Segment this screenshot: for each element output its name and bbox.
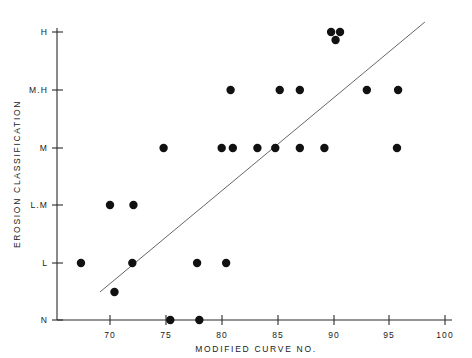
y-axis-title: EROSION CLASSIFICATION — [12, 100, 22, 248]
data-point — [296, 86, 304, 94]
y-tick-label-m: M — [40, 143, 48, 153]
x-tick-label-75: 75 — [160, 330, 172, 340]
data-point — [331, 36, 339, 44]
data-point — [226, 86, 234, 94]
data-point — [327, 28, 335, 36]
y-tick-label-h: H — [41, 27, 48, 37]
x-tick-label-70: 70 — [104, 330, 116, 340]
data-point — [110, 288, 118, 296]
x-tick-label-80: 80 — [216, 330, 228, 340]
scatter-chart: H M.H M L.M L N 70 75 80 85 90 95 100 — [0, 0, 472, 358]
data-point — [129, 201, 137, 209]
x-axis-title: MODIFIED CURVE NO. — [195, 344, 317, 354]
data-point — [166, 316, 174, 324]
data-point — [393, 144, 401, 152]
y-tick-label-n: N — [41, 315, 48, 325]
data-point — [363, 86, 371, 94]
chart-canvas: H M.H M L.M L N 70 75 80 85 90 95 100 — [0, 0, 472, 358]
data-point — [394, 86, 402, 94]
y-tick-label-lm: L.M — [31, 200, 48, 210]
y-tick-label-mh: M.H — [29, 85, 48, 95]
x-tick-label-95: 95 — [383, 330, 395, 340]
x-axis-tick-labels: 70 75 80 85 90 95 100 — [104, 330, 454, 340]
y-tick-label-l: L — [42, 258, 48, 268]
data-point — [271, 144, 279, 152]
data-point — [276, 86, 284, 94]
data-point — [128, 259, 136, 267]
data-point — [217, 144, 225, 152]
data-point — [320, 144, 328, 152]
data-point — [253, 144, 261, 152]
data-point — [229, 144, 237, 152]
data-point — [159, 144, 167, 152]
data-point — [77, 259, 85, 267]
data-point — [193, 259, 201, 267]
x-tick-label-85: 85 — [272, 330, 284, 340]
data-point — [336, 28, 344, 36]
data-point — [106, 201, 114, 209]
trend-line — [100, 22, 425, 292]
x-tick-label-100: 100 — [436, 330, 453, 340]
data-point — [222, 259, 230, 267]
x-tick-label-90: 90 — [328, 330, 340, 340]
data-point — [296, 144, 304, 152]
data-point — [195, 316, 203, 324]
y-axis-tick-labels: H M.H M L.M L N — [29, 27, 48, 325]
